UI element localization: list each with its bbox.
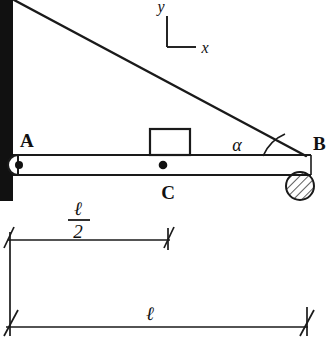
point-c-dot	[159, 161, 168, 170]
label-axis-x: x	[200, 39, 208, 56]
label-dim-half-denominator: 2	[73, 221, 83, 242]
label-dim-half-numerator: ℓ	[74, 198, 82, 219]
roller-support	[286, 172, 314, 200]
roller-circle	[286, 172, 314, 200]
block-load	[150, 129, 190, 155]
label-point-b: B	[313, 133, 326, 154]
label-point-a: A	[20, 130, 34, 151]
hinge-pin-dot	[15, 161, 23, 169]
label-dim-full: ℓ	[146, 303, 154, 324]
physics-diagram: A B C α y x ℓ 2 ℓ	[0, 0, 330, 348]
label-point-c: C	[161, 182, 175, 203]
diagram-canvas: A B C α y x ℓ 2 ℓ	[0, 0, 330, 348]
label-axis-y: y	[155, 0, 165, 16]
label-angle-alpha: α	[232, 135, 242, 155]
